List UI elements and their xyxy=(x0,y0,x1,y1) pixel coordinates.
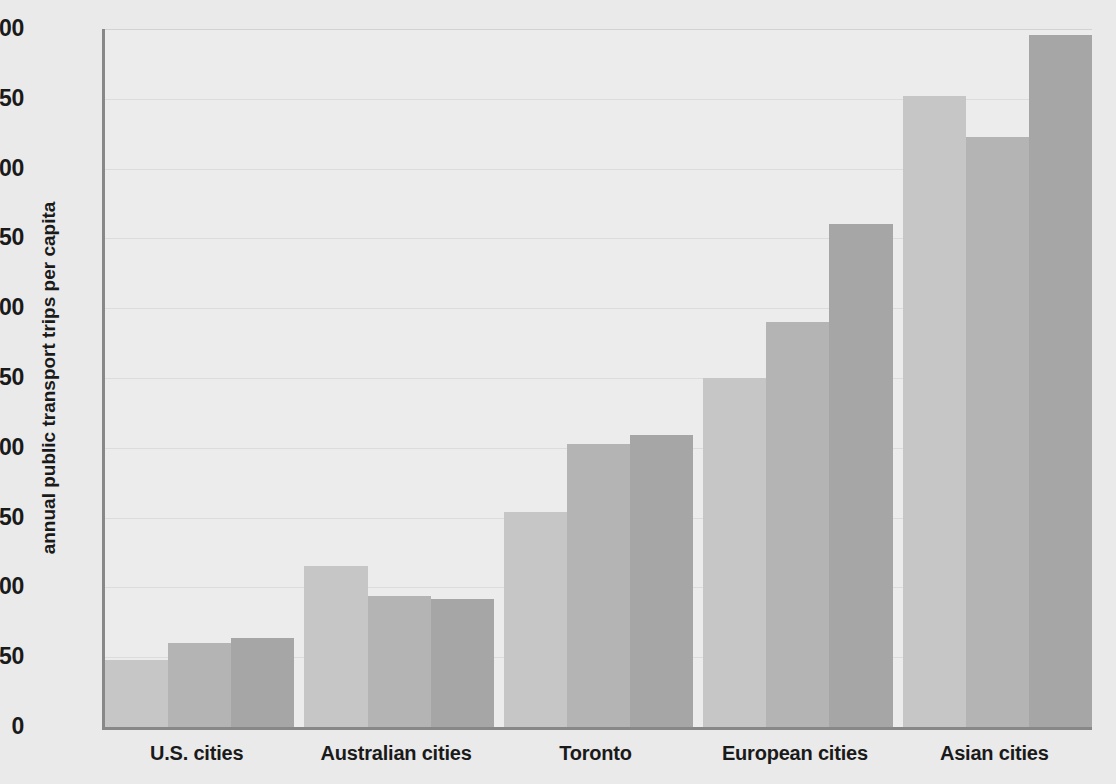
bar-group xyxy=(903,29,1092,727)
y-tick-label: 500 xyxy=(0,17,24,40)
x-tick-label: Asian cities xyxy=(900,742,1089,765)
x-tick-label: Toronto xyxy=(501,742,690,765)
bar xyxy=(304,566,367,727)
plot-area xyxy=(102,29,1092,730)
bar xyxy=(168,643,231,727)
bar xyxy=(231,638,294,727)
bar xyxy=(431,599,494,727)
y-tick-label: 100 xyxy=(0,575,24,598)
y-tick-label: 50 xyxy=(0,645,24,668)
y-tick-label: 200 xyxy=(0,436,24,459)
y-axis-label: annual public transport trips per capita xyxy=(38,29,60,727)
y-tick-label: 400 xyxy=(0,157,24,180)
bar-group xyxy=(504,29,693,727)
bar xyxy=(567,444,630,727)
bar-group xyxy=(105,29,294,727)
y-tick-label: 250 xyxy=(0,366,24,389)
x-tick-label: U.S. cities xyxy=(102,742,291,765)
bar xyxy=(966,137,1029,728)
bar xyxy=(703,378,766,727)
bar xyxy=(766,322,829,727)
y-tick-label: 450 xyxy=(0,87,24,110)
bar-chart: annual public transport trips per capita… xyxy=(0,0,1116,784)
y-tick-label: 350 xyxy=(0,226,24,249)
bar xyxy=(105,660,168,727)
x-tick-label: Australian cities xyxy=(301,742,490,765)
bar xyxy=(1029,35,1092,727)
bar xyxy=(504,512,567,727)
bar xyxy=(829,224,892,727)
bar xyxy=(903,96,966,727)
x-tick-label: European cities xyxy=(700,742,889,765)
bar xyxy=(368,596,431,727)
y-tick-label: 150 xyxy=(0,506,24,529)
y-tick-label: 300 xyxy=(0,296,24,319)
bar-group xyxy=(703,29,892,727)
bar xyxy=(630,435,693,727)
bar-group xyxy=(304,29,493,727)
y-tick-label: 0 xyxy=(0,715,24,738)
